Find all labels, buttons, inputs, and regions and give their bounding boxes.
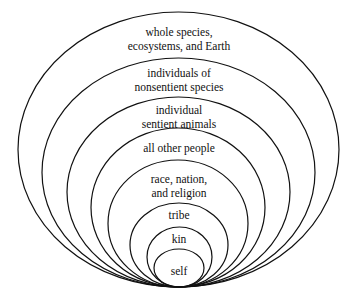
label-race-nation-religion: race, nation, and religion xyxy=(79,172,279,200)
label-whole-species: whole species, ecosystems, and Earth xyxy=(79,25,279,53)
label-line: nonsentient species xyxy=(79,80,279,94)
label-line: sentient animals xyxy=(79,117,279,131)
label-self: self xyxy=(79,264,279,278)
label-line: all other people xyxy=(79,141,279,155)
label-nonsentient-species: individuals of nonsentient species xyxy=(79,66,279,94)
label-sentient-animals: individual sentient animals xyxy=(79,103,279,131)
label-line: kin xyxy=(79,232,279,246)
label-kin: kin xyxy=(79,232,279,246)
label-line: race, nation, xyxy=(79,172,279,186)
label-line: and religion xyxy=(79,186,279,200)
label-line: ecosystems, and Earth xyxy=(79,39,279,53)
label-line: tribe xyxy=(79,208,279,222)
label-line: individuals of xyxy=(79,66,279,80)
label-line: whole species, xyxy=(79,25,279,39)
label-tribe: tribe xyxy=(79,208,279,222)
label-line: self xyxy=(79,264,279,278)
label-line: individual xyxy=(79,103,279,117)
label-all-other-people: all other people xyxy=(79,141,279,155)
